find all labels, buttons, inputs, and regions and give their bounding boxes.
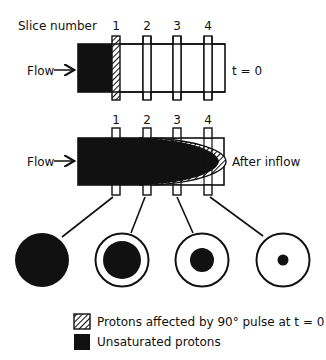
slice-number-4-bottom: 4 bbox=[204, 113, 212, 127]
legend: Protons affected by 90° pulse at t = 0 U… bbox=[74, 314, 324, 350]
state-label-t0: t = 0 bbox=[232, 64, 262, 78]
slice-number-3-bottom: 3 bbox=[173, 113, 181, 127]
cross-section-3 bbox=[176, 234, 229, 287]
slice-4-bottom bbox=[204, 128, 212, 138]
slice-1-top bbox=[112, 36, 120, 100]
top-panel: Flow t = 0 bbox=[27, 36, 262, 100]
hatched-swatch-icon bbox=[74, 314, 90, 329]
cross-section-1 bbox=[15, 233, 69, 287]
slice-1-bottom bbox=[112, 128, 120, 138]
legend-label-unsaturated: Unsaturated protons bbox=[97, 335, 221, 349]
slice-number-4-top: 4 bbox=[204, 19, 212, 33]
slice-number-2-bottom: 2 bbox=[143, 113, 151, 127]
cross-section-2 bbox=[96, 234, 149, 287]
slice-number-2-top: 2 bbox=[143, 19, 151, 33]
connector-lines bbox=[62, 197, 263, 237]
slice-number-1-top: 1 bbox=[112, 19, 120, 33]
slice-number-1-bottom: 1 bbox=[112, 113, 120, 127]
solid-swatch-icon bbox=[74, 334, 90, 350]
flow-label-top: Flow bbox=[27, 64, 55, 78]
state-label-after-inflow: After inflow bbox=[232, 155, 300, 169]
legend-label-affected: Protons affected by 90° pulse at t = 0 bbox=[97, 315, 324, 329]
bottom-panel: Flow After inflow bbox=[27, 128, 300, 195]
unsaturated-region-top bbox=[78, 44, 112, 92]
flow-inflow-diagram: Slice number 1 2 3 4 Flow t = 0 1 2 3 4 … bbox=[0, 0, 326, 360]
slice-2-bottom bbox=[143, 128, 151, 138]
slice-3-bottom bbox=[173, 128, 181, 138]
cross-section-4 bbox=[257, 234, 310, 287]
flow-label-bottom: Flow bbox=[27, 155, 55, 169]
slice-number-3-top: 3 bbox=[173, 19, 181, 33]
slice-number-label: Slice number bbox=[18, 19, 97, 33]
